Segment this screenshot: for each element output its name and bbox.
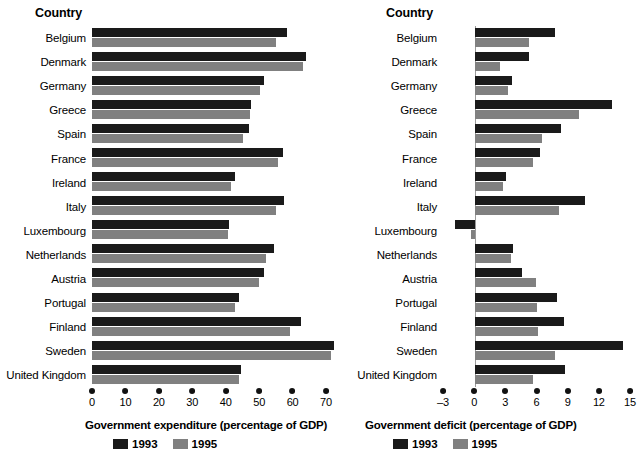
tick-dot-icon <box>565 388 571 394</box>
bar-1995 <box>92 86 260 95</box>
tick-label: 9 <box>565 396 571 408</box>
country-label: Austria <box>340 273 443 285</box>
legend-label-1995: 1995 <box>192 438 218 450</box>
axis-tick: 50 <box>253 388 265 408</box>
bar-group <box>443 315 638 339</box>
axis-tick: 20 <box>153 388 165 408</box>
tick-label: 6 <box>534 396 540 408</box>
legend-swatch-1993-icon <box>113 439 128 449</box>
bar-group <box>443 98 638 122</box>
chart-row: Italy <box>340 195 638 219</box>
chart-row: Portugal <box>0 291 340 315</box>
tick-dot-icon <box>502 388 508 394</box>
bar-group <box>443 74 638 98</box>
bar-1995 <box>92 206 276 215</box>
bar-1995 <box>475 134 541 143</box>
zero-line <box>475 219 476 243</box>
country-label: Germany <box>0 80 92 92</box>
bar-1993 <box>92 52 306 61</box>
bar-group <box>443 171 638 195</box>
chart-row: Ireland <box>340 171 638 195</box>
bar-1995 <box>475 327 538 336</box>
bar-1993 <box>475 293 556 302</box>
legend-swatch-1993-icon <box>393 439 408 449</box>
tick-dot-icon <box>627 388 633 394</box>
chart-row: Denmark <box>340 50 638 74</box>
chart-page: Country BelgiumDenmarkGermanyGreeceSpain… <box>0 0 638 462</box>
country-label: Ireland <box>0 177 92 189</box>
legend-label-1993: 1993 <box>132 438 158 450</box>
country-label: Greece <box>340 104 443 116</box>
tick-label: 30 <box>186 396 198 408</box>
country-label: Austria <box>0 273 92 285</box>
country-label: Greece <box>0 104 92 116</box>
chart-row: France <box>0 146 340 170</box>
deficit-chart-panel: Country BelgiumDenmarkGermanyGreeceSpain… <box>340 0 638 462</box>
tick-label: 0 <box>471 396 477 408</box>
axis-tick: 60 <box>287 388 299 408</box>
axis-tick: 12 <box>593 388 605 408</box>
bar-1995 <box>92 254 266 263</box>
bar-1993 <box>92 124 249 133</box>
chart-row: Luxembourg <box>0 219 340 243</box>
bar-group <box>92 243 340 267</box>
axis-tick: 40 <box>220 388 232 408</box>
bar-1993 <box>475 196 584 205</box>
chart-row: Austria <box>0 267 340 291</box>
bar-1995 <box>475 182 502 191</box>
country-label: Belgium <box>0 32 92 44</box>
bar-group <box>92 26 340 50</box>
deficit-x-axis: –303691215 <box>443 388 630 418</box>
chart-row: Spain <box>0 122 340 146</box>
chart-row: Finland <box>340 315 638 339</box>
bar-group <box>443 50 638 74</box>
bar-1995 <box>475 62 500 71</box>
expenditure-x-axis: 010203040506070 <box>92 388 326 418</box>
chart-row: France <box>340 146 638 170</box>
chart-row: Belgium <box>0 26 340 50</box>
tick-label: 60 <box>287 396 299 408</box>
chart-row: Germany <box>340 74 638 98</box>
bar-1995 <box>475 206 558 215</box>
bar-1995 <box>92 375 239 384</box>
country-label: Luxembourg <box>340 225 443 237</box>
expenditure-plot-area: BelgiumDenmarkGermanyGreeceSpainFranceIr… <box>0 26 340 388</box>
tick-dot-icon <box>189 388 195 394</box>
bar-1993 <box>92 172 235 181</box>
bar-group <box>92 171 340 195</box>
country-label: Finland <box>0 321 92 333</box>
country-label: Spain <box>340 128 443 140</box>
bar-1995 <box>475 158 532 167</box>
deficit-plot-area: BelgiumDenmarkGermanyGreeceSpainFranceIr… <box>340 26 638 388</box>
bar-1993 <box>92 341 334 350</box>
tick-dot-icon <box>471 388 477 394</box>
bar-group <box>443 195 638 219</box>
bar-group <box>443 122 638 146</box>
bar-group <box>92 74 340 98</box>
bar-1995 <box>92 134 243 143</box>
bar-group <box>443 26 638 50</box>
axis-tick: 15 <box>624 388 636 408</box>
country-label: France <box>0 153 92 165</box>
country-column-header-right: Country <box>386 6 433 20</box>
chart-row: Netherlands <box>0 243 340 267</box>
tick-dot-icon <box>534 388 540 394</box>
bar-1995 <box>475 254 511 263</box>
tick-label: 3 <box>502 396 508 408</box>
bar-group <box>92 291 340 315</box>
tick-dot-icon <box>323 388 329 394</box>
bar-1993 <box>475 172 505 181</box>
tick-dot-icon <box>223 388 229 394</box>
country-label: Portugal <box>0 297 92 309</box>
bar-1993 <box>92 365 241 374</box>
country-label: Netherlands <box>340 249 443 261</box>
bar-1993 <box>92 293 239 302</box>
legend-label-1995: 1995 <box>472 438 498 450</box>
tick-dot-icon <box>596 388 602 394</box>
tick-label: 40 <box>220 396 232 408</box>
bar-1993 <box>475 365 565 374</box>
bar-1993 <box>92 244 274 253</box>
bar-1995 <box>475 375 532 384</box>
bar-group <box>92 363 340 387</box>
tick-label: 15 <box>624 396 636 408</box>
